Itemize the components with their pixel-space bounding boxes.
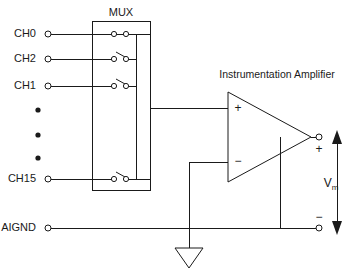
switch-blade-ch2[interactable] — [116, 52, 125, 57]
channel-label-ch0: CH0 — [14, 27, 36, 39]
amplifier-minus-input-label: − — [234, 154, 241, 168]
output-minus-label: − — [315, 210, 322, 224]
vm-arrow-head-down — [332, 221, 342, 235]
amplifier-minus-input-wire — [189, 162, 228, 228]
switch-contact-right-ch1 — [123, 83, 128, 88]
channel-terminal-ch2[interactable] — [45, 56, 51, 62]
output-plus-label: + — [315, 142, 322, 156]
channel-terminal-ch15[interactable] — [45, 176, 51, 182]
channel-label-ch2: CH2 — [14, 52, 36, 64]
output-terminal-negative[interactable] — [316, 225, 322, 231]
switch-contact-left-ch1 — [111, 83, 116, 88]
vm-voltage-label: Vm — [324, 176, 339, 192]
vm-voltage-symbol: V — [324, 176, 332, 190]
ground-triangle-icon — [175, 248, 203, 268]
ellipsis-dot-3 — [35, 155, 40, 160]
output-terminal-positive[interactable] — [316, 134, 322, 140]
channel-ellipsis — [35, 107, 40, 160]
amplifier-label: Instrumentation Amplifier — [219, 68, 335, 80]
switch-contact-right-ch15 — [123, 176, 128, 181]
channel-terminal-ch1[interactable] — [45, 83, 51, 89]
switch-contact-left-ch2 — [111, 56, 116, 61]
switch-blade-ch1[interactable] — [116, 79, 125, 84]
ellipsis-dot-2 — [35, 132, 40, 137]
switch-contact-left-ch15 — [111, 176, 116, 181]
circuit-diagram: MUX CH0 CH2 — [0, 0, 349, 277]
switch-contact-right-ch0 — [123, 31, 128, 36]
switch-blade-ch15[interactable] — [116, 172, 125, 177]
channel-label-ch15: CH15 — [8, 172, 36, 184]
aignd-terminal[interactable] — [45, 225, 51, 231]
aignd-label: AIGND — [1, 221, 36, 233]
vm-arrow-head-up — [332, 130, 342, 144]
channel-label-ch1: CH1 — [14, 79, 36, 91]
mux-output-bus — [150, 34, 228, 108]
channel-row-ch1: CH1 — [14, 79, 136, 91]
channel-row-ch2: CH2 — [14, 52, 136, 64]
vm-voltage-subscript: m — [332, 183, 339, 192]
ellipsis-dot-1 — [35, 107, 40, 112]
switch-contact-left-ch0 — [111, 31, 116, 36]
amplifier-plus-input-label: + — [234, 101, 241, 115]
channel-terminal-ch0[interactable] — [45, 31, 51, 37]
switch-contact-right-ch2 — [123, 56, 128, 61]
mux-label: MUX — [109, 6, 134, 18]
mux-outer-box — [92, 21, 150, 190]
schematic-canvas: MUX CH0 CH2 — [0, 0, 349, 277]
channel-row-ch15: CH15 — [8, 172, 136, 184]
channel-row-ch0: CH0 — [14, 27, 136, 39]
